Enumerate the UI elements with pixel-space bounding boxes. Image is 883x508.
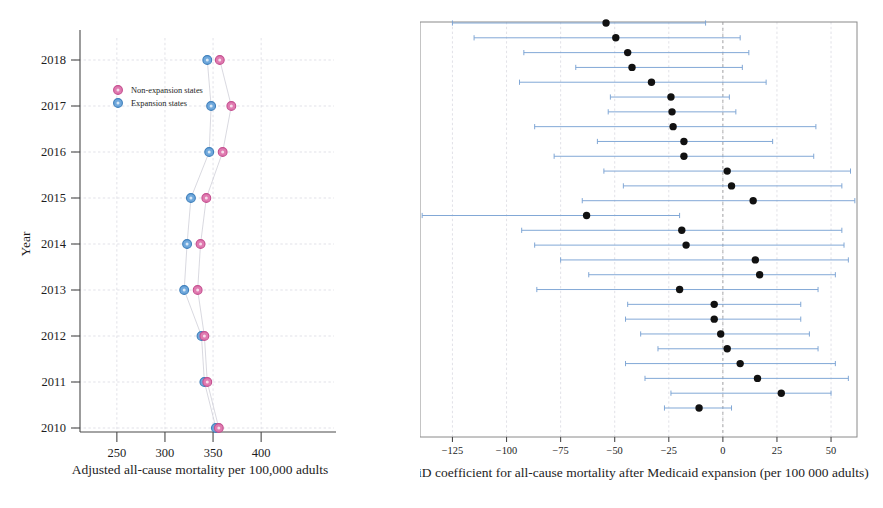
- y-tick-label: 2015: [41, 191, 66, 205]
- point-estimate-marker: [711, 301, 718, 308]
- data-point-expansion: [180, 286, 189, 295]
- data-point-non-expansion: [227, 102, 236, 111]
- y-tick-label: 2010: [41, 421, 66, 435]
- point-estimate-marker: [583, 212, 590, 219]
- data-point-non-expansion-core: [217, 427, 220, 430]
- data-point-expansion-core: [183, 289, 186, 292]
- data-point-expansion: [207, 102, 216, 111]
- legend-marker-core: [117, 102, 120, 105]
- data-point-expansion-core: [208, 151, 211, 154]
- data-point-non-expansion-core: [205, 197, 208, 200]
- x-axis-title: Adjusted all-cause mortality per 100,000…: [72, 462, 328, 477]
- right-chart-panel: Rhode IslandConnecticutNew JerseyNew Yor…: [420, 0, 883, 508]
- adjusted-mortality-scatter: 2018201720162015201420132012201120102503…: [0, 0, 420, 508]
- point-estimate-marker: [711, 315, 718, 322]
- left-chart-panel: 2018201720162015201420132012201120102503…: [0, 0, 420, 508]
- x-tick-label: 0: [720, 445, 725, 456]
- legend-label: Expansion states: [131, 99, 187, 108]
- x-tick-label: 50: [826, 445, 836, 456]
- forest-row: [664, 404, 731, 411]
- data-point-non-expansion: [200, 332, 209, 341]
- forest-row: [535, 241, 844, 248]
- data-point-non-expansion-core: [230, 105, 233, 108]
- forest-row: [535, 123, 816, 130]
- point-estimate-marker: [676, 286, 683, 293]
- x-tick-label: 250: [107, 446, 126, 460]
- data-point-non-expansion: [202, 194, 211, 203]
- y-axis-title: Year: [18, 231, 33, 256]
- data-point-expansion-core: [189, 197, 192, 200]
- point-estimate-marker: [682, 241, 689, 248]
- point-estimate-marker: [749, 197, 756, 204]
- point-estimate-marker: [717, 330, 724, 337]
- data-point-non-expansion: [215, 56, 224, 65]
- x-tick-label: 300: [156, 446, 175, 460]
- legend-label: Non-expansion states: [131, 86, 203, 95]
- forest-row: [554, 153, 814, 160]
- forest-row: [626, 315, 801, 322]
- forest-row: [608, 108, 736, 115]
- forest-row: [561, 256, 849, 263]
- point-estimate-marker: [628, 64, 635, 71]
- forest-row: [628, 301, 801, 308]
- point-estimate-marker: [752, 256, 759, 263]
- y-tick-label: 2018: [41, 53, 66, 67]
- x-tick-label: −125: [442, 445, 463, 456]
- forest-row: [658, 345, 818, 352]
- point-estimate-marker: [723, 345, 730, 352]
- point-estimate-marker: [736, 360, 743, 367]
- forest-row: [522, 227, 842, 234]
- point-estimate-marker: [648, 79, 655, 86]
- forest-row: [589, 271, 836, 278]
- data-point-expansion: [203, 56, 212, 65]
- data-point-expansion: [183, 240, 192, 249]
- point-estimate-marker: [754, 375, 761, 382]
- forest-row: [610, 93, 729, 100]
- plot-frame: [420, 22, 857, 437]
- data-point-expansion: [205, 148, 214, 157]
- point-estimate-marker: [669, 123, 676, 130]
- data-point-non-expansion: [214, 424, 223, 433]
- x-tick-label: 400: [252, 446, 271, 460]
- legend-marker: [114, 99, 123, 108]
- forest-row: [474, 34, 740, 41]
- data-point-non-expansion: [196, 240, 205, 249]
- forest-row: [576, 64, 743, 71]
- point-estimate-marker: [680, 138, 687, 145]
- data-point-non-expansion-core: [199, 243, 202, 246]
- forest-row: [671, 389, 831, 396]
- forest-row: [623, 182, 842, 189]
- point-estimate-marker: [668, 108, 675, 115]
- point-estimate-marker: [756, 271, 763, 278]
- did-coefficient-forest-plot: Rhode IslandConnecticutNew JerseyNew Yor…: [420, 0, 883, 508]
- x-tick-label: −100: [496, 445, 517, 456]
- forest-row: [452, 19, 705, 26]
- data-point-expansion-core: [210, 105, 213, 108]
- point-estimate-marker: [680, 153, 687, 160]
- forest-row: [604, 167, 851, 174]
- point-estimate-marker: [667, 93, 674, 100]
- figure-root: 2018201720162015201420132012201120102503…: [0, 0, 883, 508]
- legend-marker: [114, 86, 123, 95]
- forest-row: [537, 286, 818, 293]
- point-estimate-marker: [624, 49, 631, 56]
- forest-row: [524, 49, 749, 56]
- forest-row: [597, 138, 772, 145]
- data-point-non-expansion: [218, 148, 227, 157]
- y-tick-label: 2011: [41, 375, 66, 389]
- point-estimate-marker: [728, 182, 735, 189]
- y-tick-label: 2014: [41, 237, 67, 251]
- x-tick-label: 25: [772, 445, 782, 456]
- y-tick-label: 2017: [41, 99, 66, 113]
- x-tick-label: 350: [204, 446, 223, 460]
- data-point-non-expansion: [203, 378, 212, 387]
- point-estimate-marker: [778, 389, 785, 396]
- x-tick-label: −25: [661, 445, 677, 456]
- forest-row: [422, 212, 679, 219]
- x-axis-title: DiD coefficient for all-cause mortality …: [420, 465, 869, 480]
- data-point-non-expansion-core: [206, 381, 209, 384]
- point-estimate-marker: [602, 19, 609, 26]
- y-tick-label: 2012: [41, 329, 66, 343]
- y-tick-label: 2016: [41, 145, 66, 159]
- x-tick-label: −50: [607, 445, 623, 456]
